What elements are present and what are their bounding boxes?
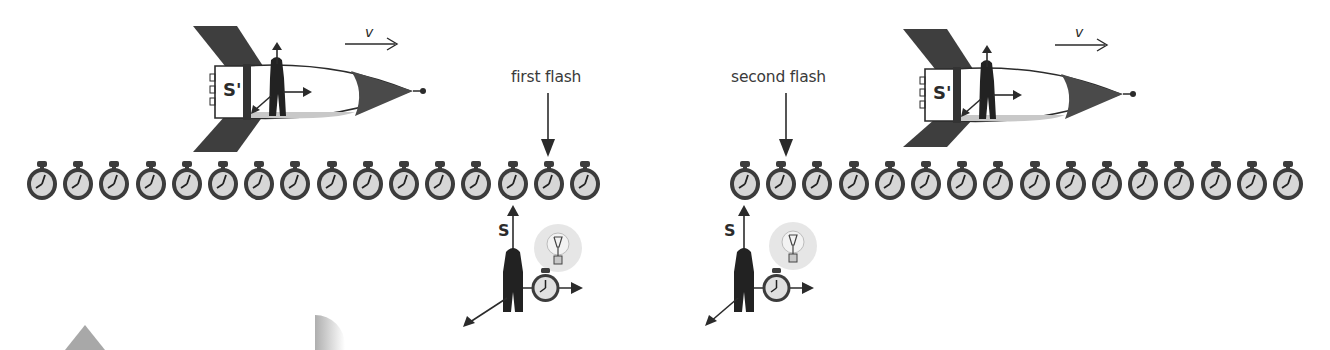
- bottom-fin-icon: [903, 119, 973, 147]
- rocket-left: S' v: [185, 24, 445, 154]
- first-flash-label: first flash: [511, 68, 581, 86]
- rocket-right: S' v: [895, 27, 1155, 157]
- ground-observer-right: S: [700, 200, 860, 330]
- stopwatch-icon: [497, 161, 529, 201]
- velocity-label: v: [1075, 24, 1084, 40]
- stopwatch-icon: [1019, 161, 1051, 201]
- stopwatch-icon: [279, 161, 311, 201]
- flash-arrow-left-icon: [540, 93, 556, 159]
- stopwatch-icon: [62, 161, 94, 201]
- stopwatch-icon: [765, 161, 797, 201]
- stopwatch-icon: [135, 161, 167, 201]
- stopwatch-icon: [98, 161, 130, 201]
- stopwatch-icon: [763, 268, 791, 302]
- stopwatch-icon: [388, 161, 420, 201]
- top-fin-icon: [193, 26, 263, 66]
- stopwatch-icon: [1236, 161, 1268, 201]
- top-fin-icon: [903, 29, 973, 69]
- ground-observer-left: S: [455, 200, 615, 330]
- ground-frame-label: S: [724, 221, 736, 240]
- stopwatch-icon: [1055, 161, 1087, 201]
- stopwatch-icon: [352, 161, 384, 201]
- stopwatch-icon: [1091, 161, 1123, 201]
- stopwatch-icon: [838, 161, 870, 201]
- observer-icon: [734, 248, 754, 312]
- stopwatch-icon: [982, 161, 1014, 201]
- stopwatch-icon: [1200, 161, 1232, 201]
- stopwatch-icon: [1127, 161, 1159, 201]
- stopwatch-icon: [569, 161, 601, 201]
- stopwatch-icon: [171, 161, 203, 201]
- partial-triangle-shape: [65, 325, 125, 350]
- ship-frame-label: S': [223, 79, 241, 100]
- stopwatch-icon: [729, 161, 761, 201]
- stopwatch-icon: [207, 161, 239, 201]
- stopwatch-icon: [533, 161, 565, 201]
- stopwatch-icon: [910, 161, 942, 201]
- relativity-diagram: S' v first flash S: [0, 0, 1330, 350]
- clock-row-left: [26, 161, 606, 201]
- stopwatch-icon: [316, 161, 348, 201]
- ground-frame-label: S: [498, 221, 510, 240]
- stopwatch-icon: [243, 161, 275, 201]
- partial-gradient-shape: [315, 315, 345, 350]
- stopwatch-icon: [874, 161, 906, 201]
- bottom-fin-icon: [193, 116, 263, 152]
- stopwatch-icon: [801, 161, 833, 201]
- stopwatch-icon: [532, 268, 560, 302]
- stopwatch-icon: [26, 161, 58, 201]
- stopwatch-icon: [424, 161, 456, 201]
- second-flash-label: second flash: [731, 68, 826, 86]
- stopwatch-icon: [1163, 161, 1195, 201]
- stopwatch-icon: [946, 161, 978, 201]
- stopwatch-icon: [460, 161, 492, 201]
- flash-arrow-right-icon: [778, 93, 794, 159]
- velocity-label: v: [365, 24, 374, 40]
- stopwatch-icon: [1272, 161, 1304, 201]
- clock-row-right: [729, 161, 1309, 201]
- ship-frame-label: S': [933, 82, 951, 103]
- observer-icon: [503, 248, 523, 312]
